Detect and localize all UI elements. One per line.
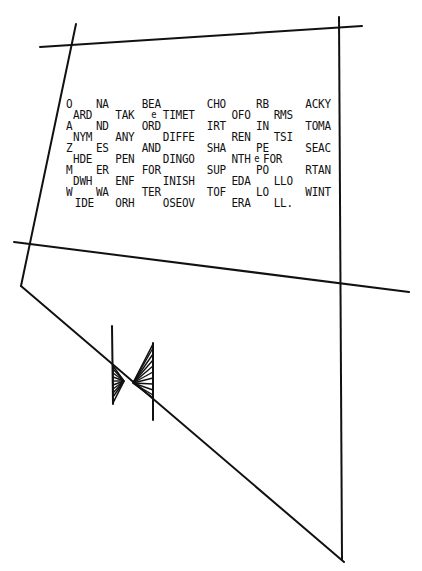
text-row-2: A ND ORD IRT IN TOMA <box>66 118 312 129</box>
diagonal-line <box>21 286 344 562</box>
line-drawing <box>0 0 422 571</box>
text-fragment: IDE <box>75 195 94 210</box>
text-row-7: DWH ENF INISH EDA LLO <box>66 173 312 184</box>
text-fragment: OSEOV <box>163 195 195 210</box>
text-row-5: HDE PEN DINGO NTH e FOR <box>66 151 312 162</box>
text-fragment: ORH <box>115 195 134 210</box>
text-fragment: LL. <box>274 195 293 210</box>
text-row-1: ARD TAK e TIMET OFO RMS <box>66 107 312 118</box>
text-row-4: Z ES AND SHA PE SEAC <box>66 140 312 151</box>
right-vertical-line <box>339 17 342 560</box>
text-row-3: NYM ANY DIFFE REN TSI <box>66 129 312 140</box>
text-row-9: IDE ORH OSEOV ERA LL. <box>66 195 312 206</box>
right-hatched-triangle <box>133 344 153 398</box>
text-row-6: M ER FOR SUP PO RTAN <box>66 162 312 173</box>
scrambled-text-block: O NA BEA CHO RB ACKY ARD TAK e TIMET OFO… <box>66 96 312 206</box>
text-fragment: ERA <box>231 195 250 210</box>
top-line <box>40 26 362 47</box>
text-row-8: W WA TER TOF LO WINT <box>66 184 312 195</box>
text-row-0: O NA BEA CHO RB ACKY <box>66 96 312 107</box>
